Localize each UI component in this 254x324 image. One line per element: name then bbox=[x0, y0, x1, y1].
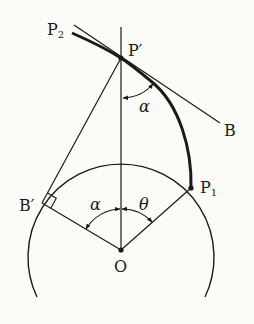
label-pprime: P′ bbox=[128, 41, 143, 60]
point-pprime bbox=[118, 55, 123, 60]
right-angle-marker bbox=[48, 193, 57, 208]
label-o: O bbox=[114, 257, 127, 276]
label-b: B bbox=[224, 121, 236, 140]
label-p2: P2 bbox=[47, 20, 64, 40]
label-alpha-top: α bbox=[139, 97, 150, 116]
line-pprime-to-bprime bbox=[42, 58, 121, 203]
label-bprime: B′ bbox=[19, 196, 35, 215]
angle-arc-alpha-top bbox=[123, 84, 153, 98]
point-p1 bbox=[188, 185, 193, 190]
label-p1: P1 bbox=[200, 178, 217, 198]
diagram-canvas: P2 P′ B P1 B′ O α α θ bbox=[0, 0, 254, 324]
label-alpha-center: α bbox=[90, 195, 101, 214]
radius-o-to-p1 bbox=[121, 188, 191, 250]
radius-o-to-bprime bbox=[42, 203, 121, 250]
point-o bbox=[118, 247, 123, 252]
label-theta: θ bbox=[139, 195, 149, 214]
